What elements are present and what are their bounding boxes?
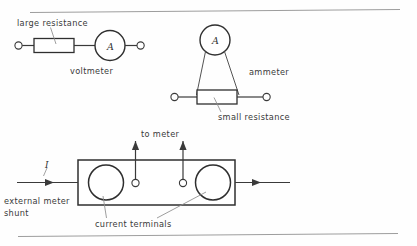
voltmeter-circuit-group [15,28,144,61]
current-terminal-left-icon [89,165,124,200]
output-current-arrowhead [252,179,261,186]
ammeter-right-terminal-icon [263,93,270,100]
top-divider-rule [30,10,400,13]
figure-linework [0,0,417,246]
potential-terminal-left-icon [132,179,139,186]
voltmeter-symbol-letter: A [107,41,114,52]
ammeter-symbol-letter: A [212,35,219,46]
voltmeter-right-terminal-icon [137,42,144,49]
large-resistance-label: large resistance [17,18,88,29]
external-meter-shunt-label-line1: external meter [4,196,70,207]
to-meter-right-arrowhead [179,141,186,150]
small-resistance-label: small resistance [218,112,290,123]
potential-terminal-right-icon [179,179,186,186]
current-terminals-label: current terminals [95,219,172,230]
large-resistance-symbol [34,39,74,53]
voltmeter-left-terminal-icon [15,42,22,49]
external-meter-shunt-label-line2: shunt [4,208,29,219]
voltmeter-label: voltmeter [70,66,113,77]
to-meter-label: to meter [141,129,179,140]
bottom-divider-rule [18,234,398,237]
ammeter-right-connector [225,52,240,96]
input-current-arrowhead [45,179,54,186]
ammeter-left-terminal-icon [171,93,178,100]
current-symbol-label: I [45,160,49,170]
to-meter-left-arrowhead [132,141,139,150]
ammeter-left-connector [197,52,206,96]
ammeter-label: ammeter [249,67,289,78]
meter-circuits-figure: large resistance A voltmeter A ammeter s… [0,0,417,246]
small-resistance-symbol [197,90,237,104]
